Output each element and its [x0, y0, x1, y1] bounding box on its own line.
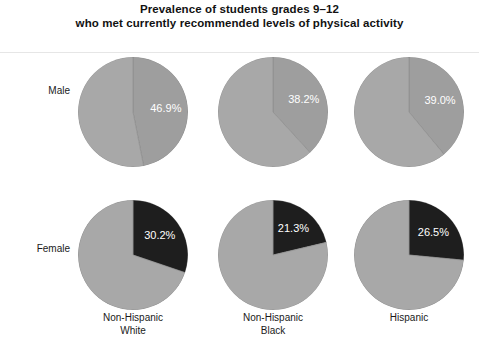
column-label-line-2: White	[68, 325, 198, 338]
column-label-hispanic: Hispanic	[344, 312, 474, 325]
row-label-male: Male	[0, 85, 70, 96]
header-divider-rule	[0, 52, 479, 53]
pie-slice-highlight	[409, 200, 464, 260]
column-label-non-hispanic-white: Non-Hispanic White	[68, 312, 198, 337]
pie-male-hispanic	[354, 57, 464, 167]
chart-title-line-2: who met currently recommended levels of …	[0, 16, 479, 30]
chart-title-line-1: Prevalence of students grades 9–12	[0, 2, 479, 16]
column-label-line-2: Black	[208, 325, 338, 338]
pie-chart-figure: Prevalence of students grades 9–12 who m…	[0, 0, 479, 343]
pie-female-non-hispanic-black	[218, 200, 328, 310]
chart-title: Prevalence of students grades 9–12 who m…	[0, 2, 479, 30]
pie-male-non-hispanic-white	[78, 57, 188, 167]
column-label-line-1: Hispanic	[344, 312, 474, 325]
pie-male-non-hispanic-black	[218, 57, 328, 167]
column-label-non-hispanic-black: Non-Hispanic Black	[208, 312, 338, 337]
column-label-line-1: Non-Hispanic	[208, 312, 338, 325]
row-label-female: Female	[0, 243, 70, 254]
pie-female-hispanic	[354, 200, 464, 310]
column-label-line-1: Non-Hispanic	[68, 312, 198, 325]
pie-slice-highlight	[133, 57, 188, 166]
pie-female-non-hispanic-white	[78, 200, 188, 310]
